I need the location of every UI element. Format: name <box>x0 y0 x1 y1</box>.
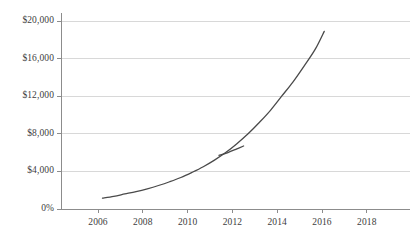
y-axis-label: $12,000 <box>22 91 54 101</box>
chart-plot-area <box>0 0 420 251</box>
x-axis-label: 2012 <box>207 218 257 228</box>
x-axis-label: 2010 <box>163 218 213 228</box>
y-axis-label: $16,000 <box>22 54 54 64</box>
x-axis-label: 2018 <box>342 218 392 228</box>
x-axis-label: 2014 <box>252 218 302 228</box>
x-axis-label: 2016 <box>297 218 347 228</box>
series-line-secondary-segment <box>219 146 244 155</box>
chart-container: $20,000$16,000$12,000$8,000$4,0000% 2006… <box>0 0 420 251</box>
x-axis-ticks <box>98 209 367 213</box>
series-line-main-curve <box>102 31 324 198</box>
y-axis-label: $8,000 <box>27 129 54 139</box>
y-axis-label: $4,000 <box>27 166 54 176</box>
y-axis-label: $20,000 <box>22 16 54 26</box>
y-axis-label: 0% <box>41 204 54 214</box>
x-axis-label: 2006 <box>73 218 123 228</box>
x-axis-label: 2008 <box>118 218 168 228</box>
y-axis-ticks <box>57 21 61 209</box>
data-series <box>102 31 324 198</box>
